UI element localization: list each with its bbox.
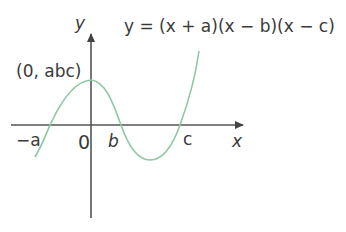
tick-neg-a: −a xyxy=(16,132,41,149)
y-axis-label: y xyxy=(75,15,85,32)
y-intercept-label: (0, abc) xyxy=(16,63,81,80)
x-axis-label: x xyxy=(232,133,242,150)
equation-label: y = (x + a)(x − b)(x − c) xyxy=(124,18,335,35)
tick-b: b xyxy=(108,133,119,150)
tick-zero: 0 xyxy=(78,133,90,152)
tick-c: c xyxy=(183,131,192,148)
